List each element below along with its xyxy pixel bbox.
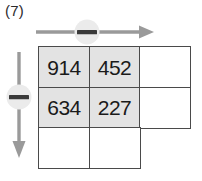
figure-canvas: (7) 914452634227 <box>0 0 202 181</box>
grid-cell-value: 634 <box>47 97 81 118</box>
grid-cell-value: 914 <box>47 56 81 77</box>
grid-cell-r3-c1[interactable] <box>38 127 90 169</box>
vertical-minus-arrow <box>4 50 34 160</box>
grid-cell-r1-c3[interactable] <box>139 46 191 88</box>
grid-cell-r1-c2[interactable]: 452 <box>89 46 141 88</box>
figure-label: (7) <box>5 2 24 19</box>
grid-cell-value: 227 <box>98 97 132 118</box>
grid-cell-r1-c1[interactable]: 914 <box>38 46 90 88</box>
grid-cell-r2-c3[interactable] <box>139 87 191 129</box>
horizontal-minus-icon <box>77 30 97 34</box>
grid-cell-r3-c2[interactable] <box>89 127 141 169</box>
horizontal-minus-arrow <box>34 18 156 46</box>
number-grid: 914452634227 <box>38 46 190 167</box>
grid-cell-r2-c1[interactable]: 634 <box>38 87 90 129</box>
grid-cell-value: 452 <box>98 56 132 77</box>
horizontal-arrow-head <box>139 26 154 39</box>
vertical-arrow-head <box>13 141 26 158</box>
vertical-minus-icon <box>9 95 29 99</box>
grid-cell-r2-c2[interactable]: 227 <box>89 87 141 129</box>
